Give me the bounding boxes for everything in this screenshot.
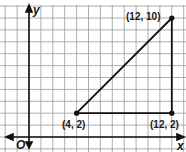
point-label-4-2: (4, 2): [62, 119, 85, 130]
y-axis-label: y: [32, 3, 41, 17]
point-label-12-10: (12, 10): [126, 11, 160, 22]
x-axis-label: x: [176, 139, 185, 152]
x-axis-left-arrow-icon: [6, 134, 13, 140]
vertex-dot: [169, 111, 174, 116]
vertex-dot: [74, 111, 79, 116]
y-axis-down-arrow-icon: [26, 142, 32, 148]
origin-label: O: [16, 138, 26, 152]
vertex-dot: [169, 15, 174, 20]
point-label-12-2: (12, 2): [150, 119, 179, 130]
coordinate-plane: y x O (4, 2) (12, 10) (12, 2): [0, 0, 186, 152]
